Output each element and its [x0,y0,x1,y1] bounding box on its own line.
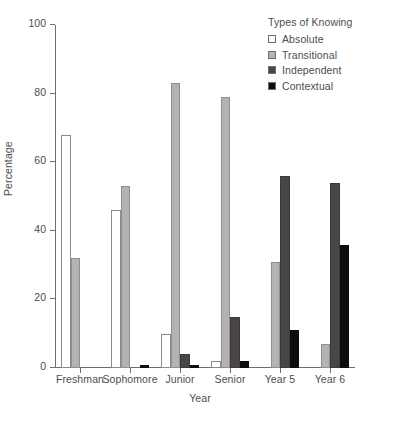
bar-group [111,25,149,368]
x-axis-title: Year [0,392,400,404]
bar-junior-independent [180,354,190,368]
y-axis-tick-label: 40 [34,223,46,235]
y-axis-tick: 0 [50,367,55,368]
bar-year-5-independent [280,176,290,368]
x-axis-category-label: Year 6 [315,373,346,385]
bar-group [211,25,249,368]
x-axis-line [55,367,355,368]
bar-sophomore-contextual [140,365,150,368]
bar-senior-transitional [221,97,231,368]
bar-senior-absolute [211,361,221,368]
bar-group [311,25,349,368]
y-axis-tick-label: 60 [34,154,46,166]
bar-sophomore-transitional [121,186,131,368]
y-axis-tick: 60 [50,161,55,162]
bar-sophomore-absolute [111,210,121,368]
x-axis-category-label: Sophomore [102,373,157,385]
bar-freshman-transitional [71,258,81,368]
bar-freshman-absolute [61,135,71,368]
bar-year-5-contextual [290,330,300,368]
y-axis-tick: 100 [50,24,55,25]
y-axis-tick: 80 [50,93,55,94]
y-axis-tick-label: 0 [40,360,46,372]
bar-year-6-contextual [340,245,350,368]
y-axis-tick: 40 [50,230,55,231]
bar-group [61,25,99,368]
x-axis-category-label: Freshman [56,373,104,385]
bar-group [161,25,199,368]
plot-area: 020406080100 [55,25,355,368]
y-axis-tick-label: 100 [28,17,46,29]
bar-senior-independent [230,317,240,368]
bar-junior-contextual [190,365,200,368]
bar-group [261,25,299,368]
y-axis-tick-label: 80 [34,86,46,98]
y-axis-tick-label: 20 [34,291,46,303]
y-axis-line [55,25,56,368]
bar-chart: Types of Knowing Absolute Transitional I… [0,0,400,427]
bar-year-5-transitional [271,262,281,368]
x-axis-category-label: Junior [165,373,194,385]
y-axis-tick: 20 [50,298,55,299]
x-axis-category-label: Senior [215,373,246,385]
bar-junior-absolute [161,334,171,368]
bar-junior-transitional [171,83,181,368]
bar-year-6-transitional [321,344,331,368]
bar-senior-contextual [240,361,250,368]
x-axis-category-label: Year 5 [265,373,296,385]
bar-year-6-independent [330,183,340,368]
y-axis-title: Percentage [2,141,14,196]
